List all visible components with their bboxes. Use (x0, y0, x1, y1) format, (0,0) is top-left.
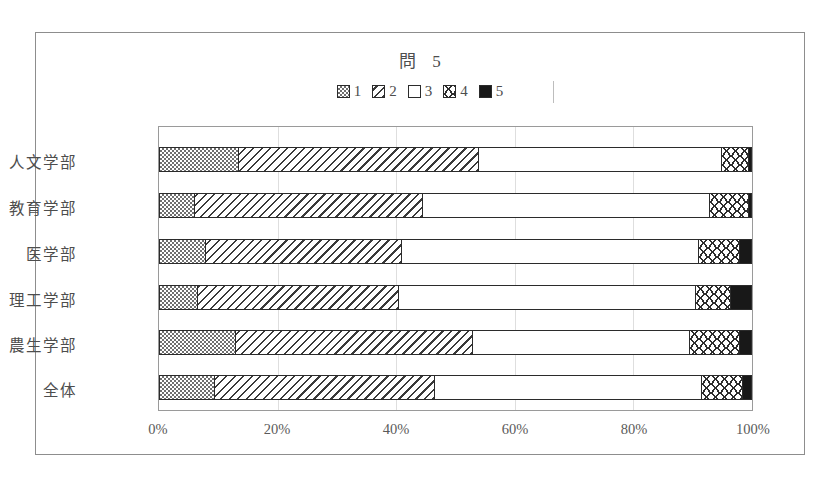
bar-segment-4 (690, 330, 740, 355)
bar-segment-5 (749, 147, 752, 172)
legend-label-5: 5 (496, 83, 504, 100)
x-axis-tick-2: 40% (383, 421, 410, 438)
bar-segment-3 (399, 285, 696, 310)
chart-legend: 12345 (36, 83, 804, 100)
bar-segment-3 (423, 193, 711, 218)
bar-segment-4 (710, 193, 749, 218)
bar-segment-2 (236, 330, 473, 355)
bar-segment-4 (696, 285, 732, 310)
bar-segment-2 (195, 193, 423, 218)
chart-title-main: 問 (399, 52, 417, 71)
category-label-4: 農生学部 (0, 333, 77, 355)
bar-segment-5 (740, 239, 752, 264)
bar-row (159, 330, 752, 355)
bar-row (159, 193, 752, 218)
bar-row (159, 375, 752, 400)
bar-segment-2 (215, 375, 434, 400)
bar-segment-3 (402, 239, 699, 264)
bar-row (159, 239, 752, 264)
x-axis-tick-1: 20% (264, 421, 291, 438)
category-label-1: 教育学部 (0, 196, 77, 218)
legend-item-4: 4 (443, 83, 468, 100)
bar-segment-5 (731, 285, 752, 310)
bar-segment-1 (159, 375, 215, 400)
bar-segment-3 (435, 375, 702, 400)
bar-row (159, 285, 752, 310)
legend-swatch-5 (479, 85, 492, 98)
legend-label-1: 1 (354, 83, 362, 100)
bar-segment-5 (749, 193, 752, 218)
x-axis-tick-4: 80% (621, 421, 648, 438)
chart-title: 問5 (36, 47, 804, 72)
legend-swatch-2 (372, 85, 385, 98)
bar-segment-1 (159, 330, 236, 355)
legend-swatch-1 (337, 85, 350, 98)
bar-segment-4 (722, 147, 749, 172)
bar-segment-2 (206, 239, 402, 264)
category-label-3: 理工学部 (0, 288, 77, 310)
legend-label-3: 3 (425, 83, 433, 100)
plot-area (158, 126, 753, 411)
bar-row (159, 147, 752, 172)
legend-item-5: 5 (479, 83, 504, 100)
legend-swatch-3 (408, 85, 421, 98)
legend-divider (553, 81, 554, 103)
bar-segment-4 (702, 375, 744, 400)
bar-segment-1 (159, 285, 198, 310)
legend-swatch-4 (443, 85, 456, 98)
legend-label-4: 4 (460, 83, 468, 100)
bar-segment-2 (198, 285, 400, 310)
bar-segment-5 (740, 330, 752, 355)
bar-segment-3 (473, 330, 689, 355)
category-label-5: 全体 (0, 378, 77, 400)
legend-label-2: 2 (389, 83, 397, 100)
bar-segment-3 (479, 147, 722, 172)
bar-segment-5 (743, 375, 752, 400)
x-axis-tick-3: 60% (502, 421, 529, 438)
x-axis-tick-5: 100% (736, 421, 770, 438)
legend-item-2: 2 (372, 83, 397, 100)
category-label-0: 人文学部 (0, 150, 77, 172)
bar-segment-1 (159, 147, 239, 172)
legend-item-1: 1 (337, 83, 362, 100)
chart-title-number: 5 (432, 52, 441, 71)
chart-frame: 問5 12345 人文学部教育学部医学部理工学部農生学部全体0%20%40%60… (35, 32, 805, 455)
legend-item-3: 3 (408, 83, 433, 100)
bar-segment-1 (159, 193, 195, 218)
x-axis-tick-0: 0% (148, 421, 167, 438)
bar-segment-4 (699, 239, 741, 264)
category-label-2: 医学部 (0, 242, 77, 264)
bar-segment-1 (159, 239, 206, 264)
bar-segment-2 (239, 147, 479, 172)
